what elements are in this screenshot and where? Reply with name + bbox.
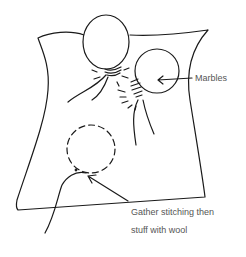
top-marble-ball	[83, 15, 129, 69]
gather-arrow	[88, 175, 128, 201]
marbles-label: Marbles	[195, 70, 227, 87]
gather-label-line2: stuff with wool	[131, 222, 187, 239]
gather-dot	[75, 169, 77, 171]
gather-thread	[45, 172, 86, 233]
fabric-fold-left	[68, 75, 106, 102]
fabric-fold-right	[134, 100, 138, 145]
gather-label-line1: Gather stitching then	[131, 204, 214, 221]
right-gather-rays	[118, 90, 136, 110]
fabric-fold-right2	[143, 100, 154, 134]
gather-dashed-circle	[67, 125, 115, 173]
right-marble-circle	[135, 49, 179, 93]
